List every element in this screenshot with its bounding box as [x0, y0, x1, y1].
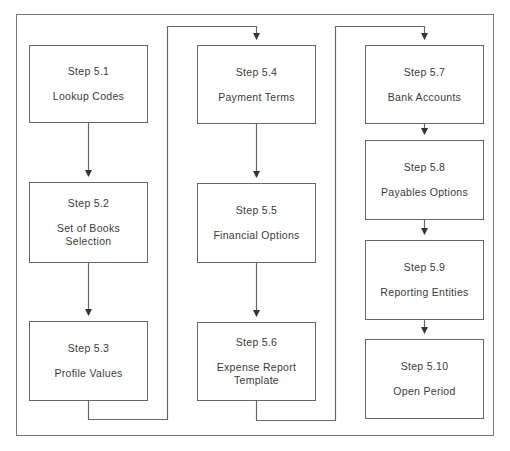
- step-number: Step 5.3: [68, 342, 110, 354]
- step-number: Step 5.6: [236, 336, 278, 348]
- step-box-5-1: Step 5.1 Lookup Codes: [29, 45, 148, 123]
- step-box-5-2: Step 5.2 Set of Books Selection: [29, 182, 148, 263]
- step-box-5-10: Step 5.10 Open Period: [365, 339, 484, 419]
- step-box-5-8: Step 5.8 Payables Options: [365, 140, 484, 220]
- step-number: Step 5.5: [236, 204, 278, 216]
- step-box-5-9: Step 5.9 Reporting Entities: [365, 240, 484, 320]
- step-number: Step 5.2: [68, 197, 110, 209]
- step-label: Lookup Codes: [47, 90, 130, 103]
- step-box-5-6: Step 5.6 Expense Report Template: [197, 322, 316, 401]
- step-number: Step 5.1: [68, 65, 110, 77]
- step-number: Step 5.4: [236, 66, 278, 78]
- step-box-5-7: Step 5.7 Bank Accounts: [365, 45, 484, 124]
- step-label: Bank Accounts: [382, 91, 467, 104]
- step-number: Step 5.9: [404, 261, 446, 273]
- step-label: Financial Options: [207, 229, 305, 242]
- step-box-5-4: Step 5.4 Payment Terms: [197, 45, 316, 124]
- step-label: Expense Report Template: [203, 361, 311, 387]
- step-number: Step 5.10: [401, 360, 449, 372]
- step-label: Profile Values: [48, 367, 128, 380]
- step-number: Step 5.7: [404, 66, 446, 78]
- step-number: Step 5.8: [404, 161, 446, 173]
- step-label: Payment Terms: [212, 91, 301, 104]
- step-label: Reporting Entities: [374, 286, 474, 299]
- step-label: Set of Books Selection: [43, 222, 135, 248]
- step-box-5-5: Step 5.5 Financial Options: [197, 183, 316, 263]
- step-box-5-3: Step 5.3 Profile Values: [29, 321, 148, 401]
- step-label: Open Period: [387, 385, 461, 398]
- step-label: Payables Options: [375, 186, 474, 199]
